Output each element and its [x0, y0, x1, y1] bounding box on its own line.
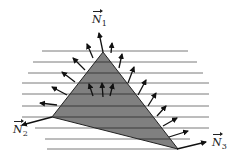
diagram-canvas	[0, 0, 238, 164]
label-n1: N1	[92, 14, 107, 28]
triangle	[52, 52, 178, 149]
normal-arrow	[128, 67, 134, 83]
label-n3: N3	[212, 137, 227, 151]
normal-arrow	[163, 118, 177, 126]
diagram: N1 N2 N3	[0, 0, 238, 164]
normal-arrow	[148, 93, 156, 106]
normal-arrow-n1	[99, 33, 103, 52]
normal-arrow	[169, 131, 188, 137]
label-n2: N2	[13, 124, 28, 138]
normal-arrow-n3	[177, 142, 206, 149]
normal-arrow	[119, 54, 122, 68]
normal-arrow	[138, 80, 146, 95]
normal-arrow	[73, 58, 85, 70]
normal-arrow	[157, 106, 166, 116]
normal-arrow	[40, 103, 57, 105]
